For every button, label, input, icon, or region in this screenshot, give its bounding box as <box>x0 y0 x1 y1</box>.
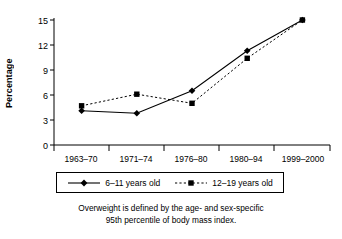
legend-solid-diamond-icon <box>67 178 101 188</box>
data-point-marker <box>134 92 139 97</box>
data-series-layer <box>78 17 305 117</box>
y-tick-label-9: 9 <box>43 66 48 76</box>
chart-figure: Percentage 15 12 9 6 3 0 <box>0 0 342 239</box>
x-tick-label-1: 1971–74 <box>119 154 152 164</box>
chart-legend: 6–11 years old 12–19 years old <box>56 172 284 193</box>
legend-label-6-11: 6–11 years old <box>105 178 160 188</box>
data-point-marker <box>300 17 305 22</box>
y-axis-label: Percentage <box>2 38 16 128</box>
y-tick-label-12: 12 <box>38 41 48 51</box>
legend-label-12-19: 12–19 years old <box>212 178 273 188</box>
plot-area: Percentage 15 12 9 6 3 0 <box>0 0 342 165</box>
legend-item-6-11[interactable]: 6–11 years old <box>67 178 160 188</box>
caption-line-1: Overweight is defined by the age- and se… <box>0 202 342 214</box>
y-tick-label-0: 0 <box>43 141 48 151</box>
y-tick-label-3: 3 <box>43 116 48 126</box>
chart-caption: Overweight is defined by the age- and se… <box>0 202 342 226</box>
data-point-marker <box>245 56 250 61</box>
legend-item-12-19[interactable]: 12–19 years old <box>174 178 273 188</box>
caption-line-2: 95th percentile of body mass index. <box>0 214 342 226</box>
x-tick-label-4: 1999–2000 <box>282 154 325 164</box>
data-point-marker <box>134 110 141 117</box>
y-tick-label-6: 6 <box>43 91 48 101</box>
y-tick-label-15: 15 <box>38 16 48 26</box>
data-point-marker <box>189 101 194 106</box>
data-point-marker <box>79 103 84 108</box>
line-chart-svg: 15 12 9 6 3 0 1963–70 1971–7 <box>0 0 342 165</box>
series-line-6-11 <box>82 20 303 113</box>
x-tick-label-0: 1963–70 <box>64 154 97 164</box>
legend-dashed-square-icon <box>174 178 208 188</box>
x-tick-label-3: 1980–94 <box>229 154 262 164</box>
x-tick-label-2: 1976–80 <box>174 154 207 164</box>
